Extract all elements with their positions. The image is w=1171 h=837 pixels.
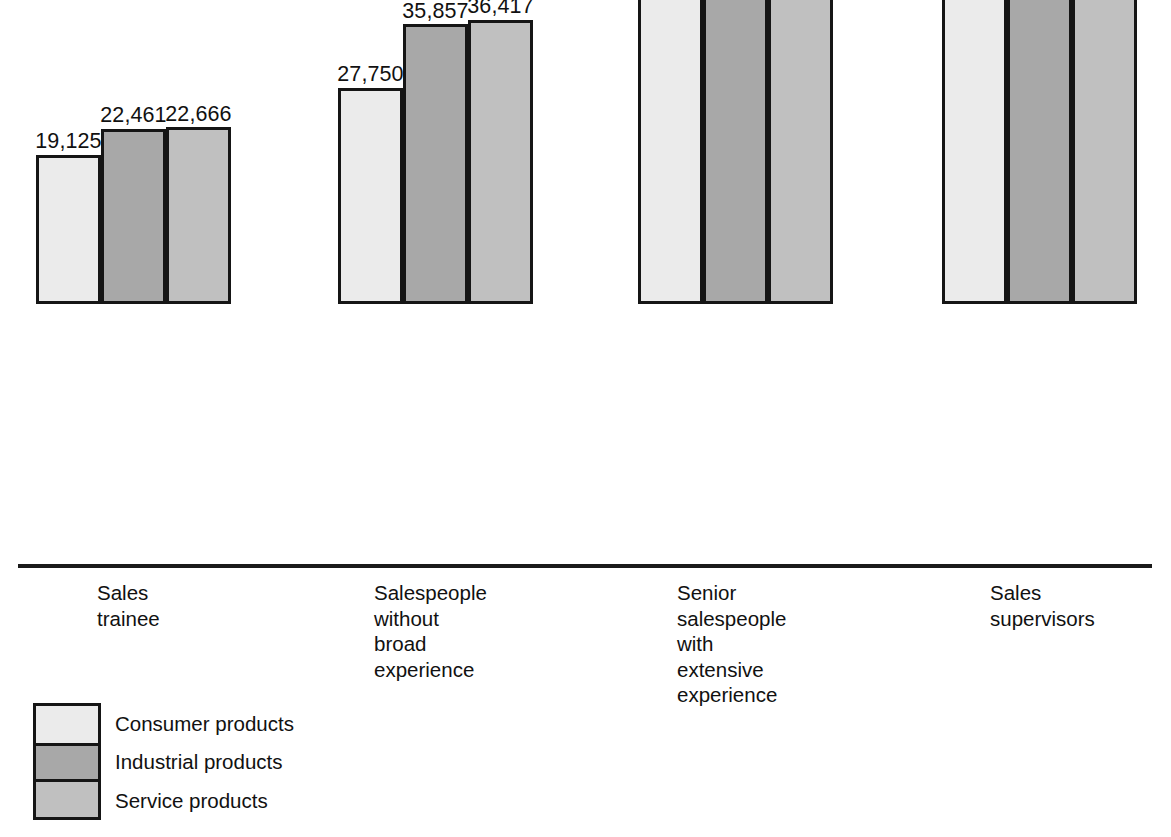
bar-consumer-products[interactable]: 19,125 — [36, 155, 101, 304]
legend-swatch-industrial-products — [36, 743, 98, 782]
bar-chart: 19,125 22,461 22,666 27,750 35,857 36,41… — [0, 0, 1171, 837]
bar-value-label: 36,417 — [467, 0, 533, 18]
category-label-senior-salespeople-with-extensive-experience: Senior salespeople with extensive experi… — [677, 580, 786, 708]
bar-value-label: 22,666 — [165, 104, 231, 126]
bar-service-products[interactable]: 66,500 — [768, 0, 833, 304]
legend-label-service-products: Service products — [115, 791, 268, 812]
bar-value-label: 22,461 — [100, 105, 166, 127]
legend-label-consumer-products: Consumer products — [115, 714, 294, 735]
category-label-sales-supervisors: Sales supervisors — [990, 580, 1095, 631]
x-axis-baseline — [18, 564, 1152, 568]
bar-service-products[interactable]: 36,417 — [468, 20, 533, 304]
category-label-salespeople-without-broad-experience: Salespeople without broad experience — [374, 580, 487, 682]
bar-industrial-products[interactable]: 56,880 — [1007, 0, 1072, 304]
legend-swatch-consumer-products — [36, 706, 98, 743]
bar-industrial-products[interactable]: 22,461 — [101, 129, 166, 304]
category-label-sales-trainee: Sales trainee — [97, 580, 160, 631]
bar-industrial-products[interactable]: 54,640 — [703, 0, 768, 304]
bar-consumer-products[interactable]: 27,750 — [338, 88, 403, 304]
chart-legend: Consumer products Industrial products Se… — [33, 703, 1133, 823]
bar-value-label: 19,125 — [35, 131, 101, 153]
plot-area: 19,125 22,461 22,666 27,750 35,857 36,41… — [0, 0, 1171, 575]
bar-value-label: 35,857 — [402, 1, 468, 23]
bar-service-products[interactable]: 66,461 — [1072, 0, 1137, 304]
legend-swatch-stack — [33, 703, 101, 820]
bar-industrial-products[interactable]: 35,857 — [403, 24, 468, 304]
legend-label-industrial-products: Industrial products — [115, 752, 283, 773]
legend-swatch-service-products — [36, 782, 98, 817]
bar-consumer-products[interactable]: 44,286 — [638, 0, 703, 304]
bar-service-products[interactable]: 22,666 — [166, 127, 231, 304]
bar-value-label: 27,750 — [337, 64, 403, 86]
bar-consumer-products[interactable]: 45,625 — [942, 0, 1007, 304]
